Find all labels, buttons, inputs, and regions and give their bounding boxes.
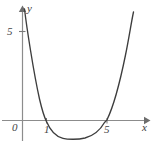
origin-label: 0 bbox=[12, 122, 18, 133]
x-tick-label-1: 1 bbox=[44, 124, 50, 135]
plot-canvas bbox=[0, 0, 153, 142]
x-axis-label: x bbox=[142, 122, 147, 133]
x-tick-label-5: 5 bbox=[104, 124, 110, 135]
y-tick-label-5: 5 bbox=[7, 26, 13, 37]
y-axis-label: y bbox=[27, 3, 32, 14]
parabola-curve bbox=[25, 9, 134, 139]
parabola-graph-figure: y x 5 0 1 5 bbox=[0, 0, 153, 142]
